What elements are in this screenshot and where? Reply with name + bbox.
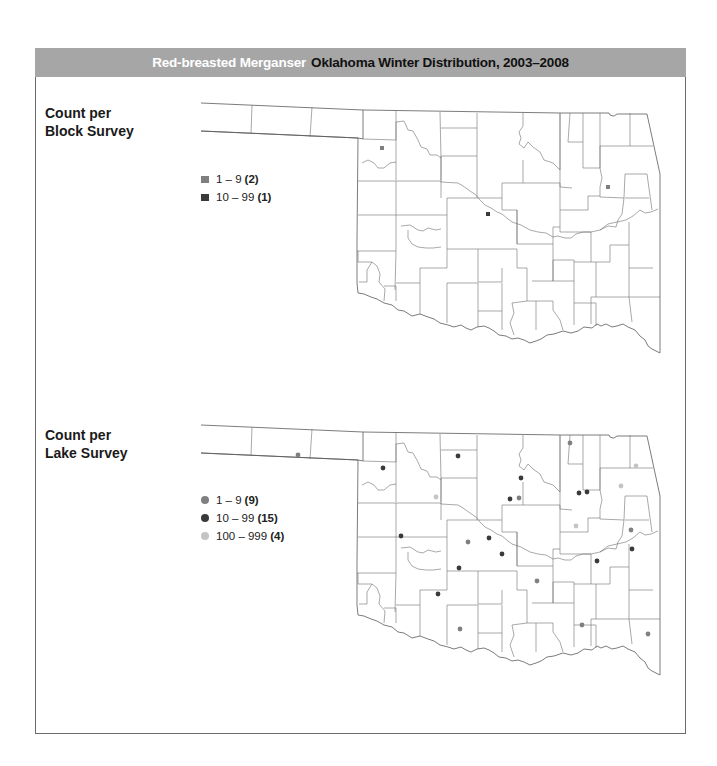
lake-point <box>619 484 624 489</box>
lake-point <box>500 552 505 557</box>
lake-point <box>535 579 540 584</box>
lake-point <box>517 496 522 501</box>
lake-point <box>434 495 439 500</box>
lake-point <box>574 524 579 529</box>
lake-point <box>487 536 492 541</box>
lake-point <box>508 497 513 502</box>
lake-point <box>399 534 404 539</box>
lake-point <box>568 441 573 446</box>
lake-point <box>296 453 301 458</box>
lake-point <box>456 454 461 459</box>
maps-svg <box>0 0 717 766</box>
block-point <box>486 212 490 216</box>
lake-survey-map <box>201 425 660 675</box>
lake-point <box>580 623 585 628</box>
lake-points <box>296 441 651 637</box>
block-point <box>606 185 610 189</box>
lake-point <box>577 491 582 496</box>
lake-point <box>381 466 386 471</box>
lake-point <box>458 627 463 632</box>
lake-point <box>519 476 524 481</box>
block-point <box>380 146 384 150</box>
lake-point <box>634 464 639 469</box>
lake-point <box>646 632 651 637</box>
block-survey-map <box>201 103 660 353</box>
lake-point <box>629 528 634 533</box>
lake-point <box>595 559 600 564</box>
lake-point <box>436 592 441 597</box>
lake-point <box>457 566 462 571</box>
lake-point <box>585 490 590 495</box>
lake-point <box>466 540 471 545</box>
lake-point <box>630 547 635 552</box>
